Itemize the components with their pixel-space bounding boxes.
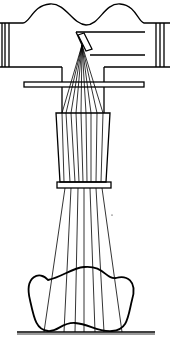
optical-diagram — [0, 0, 170, 337]
ground-line — [17, 332, 155, 334]
object-outline — [29, 267, 134, 331]
lower-plate — [57, 182, 111, 188]
stray-dot — [111, 214, 112, 215]
mirror — [76, 32, 145, 55]
left-vent — [2, 23, 9, 67]
right-vent — [156, 23, 164, 67]
